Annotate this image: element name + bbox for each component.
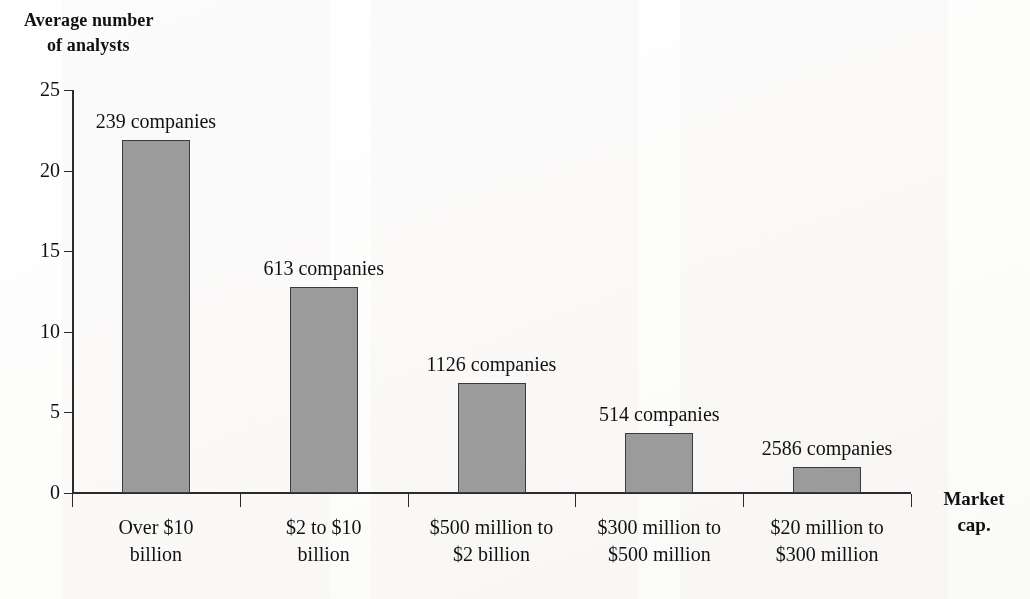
bar	[122, 140, 190, 493]
bar	[290, 287, 358, 493]
bar	[793, 467, 861, 493]
bar-data-label: 2586 companies	[717, 437, 937, 459]
x-axis-category-label: $2 to $10 billion	[240, 514, 408, 568]
y-axis-tick-label: 5	[18, 401, 60, 421]
y-axis-tick-mark	[64, 90, 73, 91]
x-axis-category-label: Over $10 billion	[72, 514, 240, 568]
bar-data-label: 613 companies	[214, 257, 434, 279]
x-axis-category-label: $500 million to $2 billion	[408, 514, 576, 568]
x-axis-category-label: $300 million to $500 million	[575, 514, 743, 568]
y-axis-title-line-1: Average number	[24, 8, 154, 33]
y-axis-tick-label: 0	[18, 482, 60, 502]
x-axis-category-label: $20 million to $300 million	[743, 514, 911, 568]
y-axis-line	[72, 90, 74, 494]
y-axis-tick-label: 20	[18, 160, 60, 180]
y-axis-title-line-2: of analysts	[47, 33, 130, 58]
x-axis-tick-mark	[240, 494, 241, 507]
bar-data-label: 1126 companies	[382, 353, 602, 375]
x-axis-tick-mark	[575, 494, 576, 507]
x-axis-title: Market cap.	[922, 486, 1026, 538]
x-axis-tick-mark	[72, 494, 73, 507]
y-axis-tick-mark	[64, 251, 73, 252]
bar-data-label: 239 companies	[46, 110, 266, 132]
bar	[625, 433, 693, 493]
x-axis-tick-mark	[408, 494, 409, 507]
y-axis-tick-mark	[64, 332, 73, 333]
x-axis-tick-mark	[911, 494, 912, 507]
bar-chart: Average number of analysts 0510152025 23…	[0, 0, 1030, 599]
x-axis-tick-mark	[743, 494, 744, 507]
y-axis-tick-label: 15	[18, 240, 60, 260]
y-axis-tick-label: 10	[18, 321, 60, 341]
bar	[458, 383, 526, 493]
y-axis-tick-mark	[64, 171, 73, 172]
bar-data-label: 514 companies	[549, 403, 769, 425]
y-axis-tick-label: 25	[18, 79, 60, 99]
y-axis-tick-mark	[64, 412, 73, 413]
